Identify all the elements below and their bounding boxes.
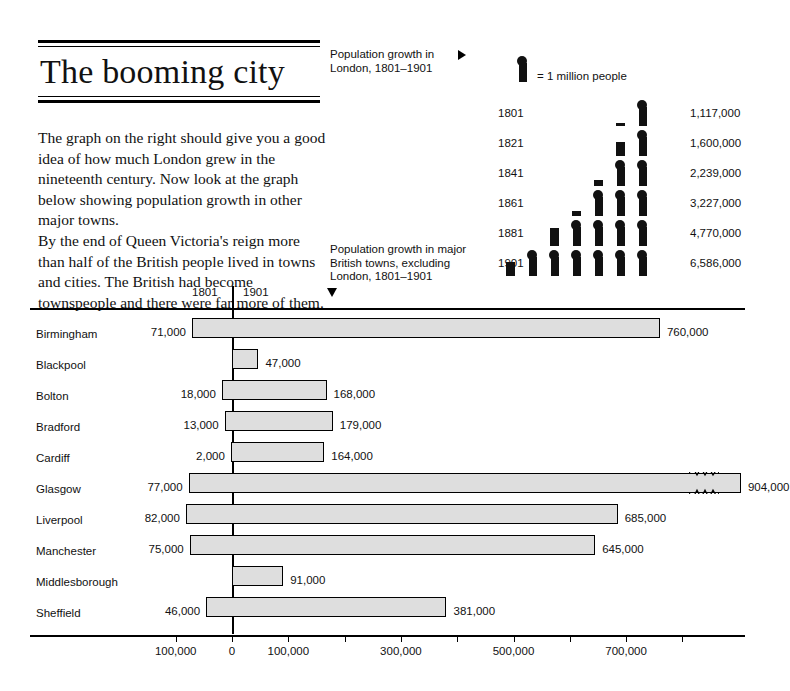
bar-category-label: Sheffield	[36, 606, 81, 620]
person-figure-icon	[635, 160, 649, 186]
bar-end-value-label: 904,000	[748, 481, 790, 493]
london-pictogram-chart: 18011,117,00018211,600,00018412,239,0001…	[0, 0, 773, 300]
bar	[192, 318, 660, 338]
x-axis-tick	[345, 635, 346, 642]
x-axis-tick	[288, 635, 289, 642]
bar-row: Cardiff2,000164,000	[0, 440, 773, 471]
x-axis-tick-label: 700,000	[605, 645, 647, 657]
bar-row: Sheffield46,000381,000	[0, 595, 773, 626]
person-figure-icon	[635, 190, 649, 216]
bar-start-value-label: 71,000	[126, 326, 186, 338]
bar-end-value-label: 168,000	[334, 388, 376, 400]
person-figure-partial-icon	[569, 190, 583, 216]
pictogram-figures	[569, 190, 657, 216]
pictogram-figures	[503, 250, 657, 276]
bar-start-value-label: 13,000	[159, 419, 219, 431]
bar-row: Liverpool82,000685,000	[0, 502, 773, 533]
bar-row: Middlesborough91,000	[0, 564, 773, 595]
person-figure-partial-icon	[613, 100, 627, 126]
bar-category-label: Middlesborough	[36, 575, 118, 589]
x-axis-tick-label: 500,000	[493, 645, 535, 657]
x-axis-tick	[176, 635, 177, 642]
x-axis-tick	[570, 635, 571, 642]
person-figure-icon	[613, 250, 627, 276]
bar-category-label: Manchester	[36, 544, 96, 558]
bar-row: Manchester75,000645,000	[0, 533, 773, 564]
bar-end-value-label: 645,000	[602, 543, 644, 555]
bar	[231, 442, 324, 462]
bar-category-label: Cardiff	[36, 451, 70, 465]
person-figure-icon	[591, 190, 605, 216]
x-axis-tick-label: 100,000	[155, 645, 197, 657]
person-figure-partial-icon	[613, 130, 627, 156]
person-figure-icon	[613, 160, 627, 186]
bar-end-value-label: 47,000	[265, 357, 300, 369]
x-axis-tick-label: 300,000	[380, 645, 422, 657]
pictogram-row: 18613,227,000	[0, 190, 773, 216]
bar-row: Glasgow77,000904,000	[0, 471, 773, 502]
pictogram-year-label: 1801	[498, 107, 538, 119]
person-figure-icon	[569, 220, 583, 246]
x-axis-tick	[457, 635, 458, 642]
pictogram-figures	[591, 160, 657, 186]
bar	[232, 349, 258, 369]
person-figure-icon	[591, 220, 605, 246]
bar-category-label: Bolton	[36, 389, 69, 403]
pictogram-year-label: 1881	[498, 227, 538, 239]
pictogram-row: 18011,117,000	[0, 100, 773, 126]
pictogram-value-label: 1,600,000	[690, 137, 741, 149]
person-figure-icon	[613, 190, 627, 216]
pictogram-value-label: 2,239,000	[690, 167, 741, 179]
pictogram-row: 19016,586,000	[0, 250, 773, 276]
x-axis-tick	[682, 635, 683, 642]
bar-category-label: Liverpool	[36, 513, 83, 527]
person-figure-partial-icon	[547, 220, 561, 246]
pictogram-figures	[613, 100, 657, 126]
bar-category-label: Glasgow	[36, 482, 81, 496]
bar-end-value-label: 381,000	[454, 605, 496, 617]
pictogram-value-label: 4,770,000	[690, 227, 741, 239]
bar	[190, 535, 595, 555]
bar-row: Bradford13,000179,000	[0, 409, 773, 440]
bar-category-label: Bradford	[36, 420, 80, 434]
pictogram-year-label: 1841	[498, 167, 538, 179]
person-figure-icon	[525, 250, 539, 276]
x-axis-tick	[514, 635, 515, 642]
person-figure-icon	[547, 250, 561, 276]
pictogram-row: 18211,600,000	[0, 130, 773, 156]
bar-start-value-label: 18,000	[156, 388, 216, 400]
bar-end-value-label: 760,000	[667, 326, 709, 338]
person-figure-icon	[635, 130, 649, 156]
bar-start-value-label: 75,000	[124, 543, 184, 555]
x-axis: 100,0000100,000300,000500,000700,000	[0, 635, 773, 675]
bar	[186, 504, 618, 524]
bar-row: Blackpool47,000	[0, 347, 773, 378]
bar-row: Bolton18,000168,000	[0, 378, 773, 409]
axis-header-1901: 1901	[243, 286, 269, 298]
scale-break-marker-icon	[689, 472, 719, 494]
pictogram-year-label: 1861	[498, 197, 538, 209]
pictogram-value-label: 1,117,000	[690, 107, 740, 119]
bar-end-value-label: 179,000	[340, 419, 382, 431]
bar	[225, 411, 333, 431]
x-axis-tick	[626, 635, 627, 642]
pictogram-figures	[613, 130, 657, 156]
bar-category-label: Blackpool	[36, 358, 86, 372]
person-figure-partial-icon	[591, 160, 605, 186]
bar-end-value-label: 685,000	[625, 512, 667, 524]
pictogram-row: 18412,239,000	[0, 160, 773, 186]
bar-start-value-label: 82,000	[120, 512, 180, 524]
chart-top-rule	[30, 308, 745, 310]
bar-category-label: Birmingham	[36, 327, 97, 341]
towns-bar-chart: 1801 1901 Birmingham71,000760,000Blackpo…	[0, 300, 773, 660]
x-axis-tick	[232, 635, 233, 642]
person-figure-icon	[613, 220, 627, 246]
bar	[222, 380, 327, 400]
pictogram-figures	[547, 220, 657, 246]
bar-row: Birmingham71,000760,000	[0, 316, 773, 347]
x-axis-tick	[401, 635, 402, 642]
person-figure-icon	[635, 100, 649, 126]
bar-start-value-label: 2,000	[165, 450, 225, 462]
bar	[232, 566, 283, 586]
